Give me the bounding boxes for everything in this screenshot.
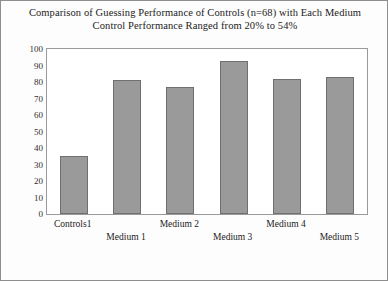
y-axis-tick: 40 xyxy=(34,143,43,153)
y-axis-tick: 100 xyxy=(30,44,44,54)
bar xyxy=(326,77,354,214)
y-axis-tick: 20 xyxy=(34,176,43,186)
x-axis-tick: Controls1 xyxy=(54,219,91,229)
y-axis-tick: 70 xyxy=(34,94,43,104)
figure-page: Comparison of Guessing Performance of Co… xyxy=(0,0,388,281)
bar xyxy=(273,79,301,214)
y-axis-tick: 10 xyxy=(34,193,43,203)
y-axis-tick: 0 xyxy=(39,209,44,219)
y-axis-tick: 90 xyxy=(34,61,43,71)
x-axis-tick: Medium 5 xyxy=(320,232,359,242)
bar xyxy=(113,80,141,214)
plot-area: 0102030405060708090100 xyxy=(46,48,368,215)
y-axis-tick: 80 xyxy=(34,77,43,87)
y-axis-tick: 30 xyxy=(34,160,43,170)
bar-series xyxy=(47,49,367,214)
x-axis-tick: Medium 2 xyxy=(160,219,199,229)
y-axis-tick: 60 xyxy=(34,110,43,120)
x-axis-tick: Medium 3 xyxy=(213,232,252,242)
chart-title: Comparison of Guessing Performance of Co… xyxy=(11,6,379,32)
x-axis-tick: Medium 1 xyxy=(106,232,145,242)
bar xyxy=(220,61,248,214)
chart-title-line-2: Control Performance Ranged from 20% to 5… xyxy=(11,19,379,32)
bar xyxy=(60,156,88,214)
chart-title-line-1: Comparison of Guessing Performance of Co… xyxy=(11,6,379,19)
y-axis-tick: 50 xyxy=(34,127,43,137)
bar xyxy=(166,87,194,214)
x-axis-tick: Medium 4 xyxy=(266,219,305,229)
